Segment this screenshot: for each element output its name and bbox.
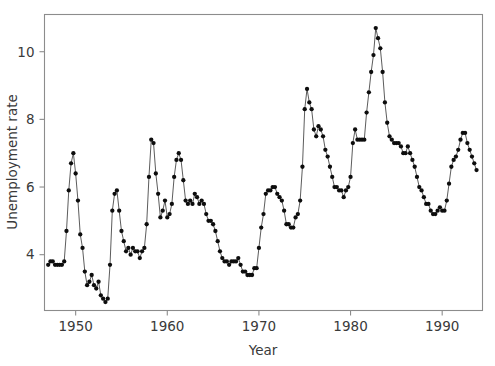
data-point <box>213 229 217 233</box>
data-point <box>115 188 119 192</box>
x-tick-label-1980: 1980 <box>333 318 367 334</box>
data-point <box>321 134 325 138</box>
data-point <box>319 127 323 131</box>
data-point <box>257 246 261 250</box>
x-axis-tick-labels: 19501960197019801990 <box>58 318 459 334</box>
data-point <box>254 266 258 270</box>
data-point <box>305 87 309 91</box>
data-point <box>204 212 208 216</box>
data-point <box>74 171 78 175</box>
data-point <box>167 212 171 216</box>
data-point <box>413 165 417 169</box>
data-point <box>174 158 178 162</box>
data-point <box>96 280 100 284</box>
data-point <box>202 202 206 206</box>
data-point <box>309 107 313 111</box>
data-point <box>312 127 316 131</box>
data-point <box>142 246 146 250</box>
x-tick-label-1970: 1970 <box>242 318 276 334</box>
data-point <box>371 53 375 57</box>
data-point <box>328 165 332 169</box>
data-point <box>158 215 162 219</box>
data-point <box>426 202 430 206</box>
x-tick-label-1960: 1960 <box>150 318 184 334</box>
data-point <box>346 185 350 189</box>
data-point <box>179 158 183 162</box>
data-point <box>445 198 449 202</box>
data-point <box>442 209 446 213</box>
data-point <box>300 165 304 169</box>
data-point <box>156 192 160 196</box>
data-point <box>330 175 334 179</box>
data-point <box>181 178 185 182</box>
data-point <box>71 151 75 155</box>
data-point <box>218 249 222 253</box>
y-tick-label-6: 6 <box>26 179 35 195</box>
data-point <box>172 175 176 179</box>
data-point <box>298 198 302 202</box>
data-point <box>106 297 110 301</box>
data-point <box>238 263 242 267</box>
data-point <box>383 100 387 104</box>
x-tick-label-1990: 1990 <box>425 318 459 334</box>
data-point <box>282 209 286 213</box>
data-point <box>87 280 91 284</box>
data-point <box>465 141 469 145</box>
data-point <box>67 188 71 192</box>
y-tick-label-4: 4 <box>26 246 35 262</box>
data-point <box>135 249 139 253</box>
data-point <box>307 100 311 104</box>
y-axis-ticks <box>40 52 45 255</box>
unemployment-rate-chart: 46810 19501960197019801990 Year Unemploy… <box>0 0 495 366</box>
data-point <box>468 148 472 152</box>
data-point <box>69 161 73 165</box>
data-point <box>145 222 149 226</box>
data-point <box>64 229 68 233</box>
data-point <box>364 110 368 114</box>
data-point <box>126 246 130 250</box>
series-markers-unemployment-rate <box>46 26 479 304</box>
chart-canvas: 46810 19501960197019801990 Year Unemploy… <box>0 0 495 366</box>
data-point <box>80 246 84 250</box>
data-point <box>362 138 366 142</box>
data-point <box>177 151 181 155</box>
data-point <box>163 198 167 202</box>
data-point <box>190 202 194 206</box>
data-point <box>376 36 380 40</box>
data-point <box>385 121 389 125</box>
series-line-unemployment-rate <box>48 28 476 302</box>
data-point <box>110 209 114 213</box>
data-point <box>216 239 220 243</box>
data-point <box>147 175 151 179</box>
data-point <box>351 141 355 145</box>
x-axis-title: Year <box>248 342 278 358</box>
data-point <box>472 161 476 165</box>
data-point <box>339 188 343 192</box>
data-point <box>303 107 307 111</box>
data-point <box>353 127 357 131</box>
data-point <box>119 229 123 233</box>
data-point <box>449 165 453 169</box>
data-point <box>403 151 407 155</box>
data-point <box>108 263 112 267</box>
data-point <box>280 198 284 202</box>
data-point <box>128 253 132 257</box>
y-tick-label-8: 8 <box>26 111 35 127</box>
data-point <box>170 202 174 206</box>
data-point <box>369 70 373 74</box>
y-axis-title: Unemployment rate <box>4 94 20 229</box>
data-point <box>94 286 98 290</box>
data-point <box>378 46 382 50</box>
data-point <box>374 26 378 30</box>
data-point <box>83 269 87 273</box>
x-tick-label-1950: 1950 <box>58 318 92 334</box>
data-point <box>296 212 300 216</box>
data-point <box>122 239 126 243</box>
data-point <box>380 70 384 74</box>
data-point <box>458 138 462 142</box>
data-point <box>410 158 414 162</box>
data-point <box>138 256 142 260</box>
data-point <box>62 259 66 263</box>
data-point <box>211 222 215 226</box>
y-tick-label-10: 10 <box>17 44 34 60</box>
